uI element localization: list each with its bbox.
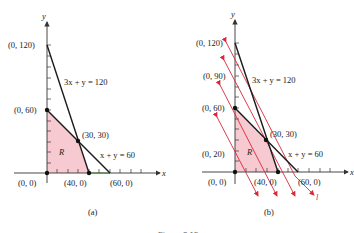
label-40-0-a: (40, 0) xyxy=(64,178,87,188)
label-0-120-b: (0, 120) xyxy=(196,38,223,48)
eq-x-plus-y-b: x + y = 60 xyxy=(288,149,323,159)
label-0-90-b: (0, 90) xyxy=(203,71,226,81)
y-axis-label-a: y xyxy=(41,11,46,21)
label-30-30-b: (30, 30) xyxy=(270,129,297,139)
region-label-b: R xyxy=(246,147,253,157)
vertex-30-30-b xyxy=(264,138,268,142)
panel-b: y x (0, 120) (0, 90) (0, 60) (0, 20) (30… xyxy=(196,9,354,217)
panel-caption-a: (a) xyxy=(88,207,98,217)
eq-3x-plus-y-b: 3x + y = 120 xyxy=(252,75,296,85)
eq-3x-plus-y-a: 3x + y = 120 xyxy=(64,77,108,87)
label-0-0-a: (0, 0) xyxy=(18,178,37,188)
label-0-60-a: (0, 60) xyxy=(14,105,37,115)
region-label-a: R xyxy=(58,147,65,157)
vertex-0-60-a xyxy=(45,108,49,112)
level-lines xyxy=(217,42,314,196)
figure-caption: Figure 3.15 xyxy=(158,230,199,233)
label-40-0-b: (40, 0) xyxy=(254,177,277,187)
vertex-0-60-b xyxy=(233,106,237,110)
y-axis-label-b: y xyxy=(230,9,235,19)
vertex-30-30-a xyxy=(76,139,80,143)
label-0-60-b: (0, 60) xyxy=(202,103,225,113)
label-60-0-b: (60, 0) xyxy=(298,177,321,187)
label-60-0-a: (60, 0) xyxy=(110,178,133,188)
x-axis-label-a: x xyxy=(161,168,166,178)
vertex-0-0-b xyxy=(233,170,237,174)
level-line-label: l xyxy=(316,192,319,202)
label-0-20-b: (0, 20) xyxy=(202,149,225,159)
feasible-region-b xyxy=(235,108,278,172)
vertex-40-0-a xyxy=(87,171,91,175)
label-0-0-b: (0, 0) xyxy=(208,177,227,187)
eq-x-plus-y-a: x + y = 60 xyxy=(100,150,135,160)
label-30-30-a: (30, 30) xyxy=(82,130,109,140)
figure-canvas: y x (0, 120) (0, 60) (30, 30) (0, 0) (40… xyxy=(0,0,354,233)
label-0-120-a: (0, 120) xyxy=(8,40,35,50)
vertex-40-0-b xyxy=(276,170,280,174)
panel-caption-b: (b) xyxy=(264,207,274,217)
feasible-region-a xyxy=(47,110,89,173)
panel-a: y x (0, 120) (0, 60) (30, 30) (0, 0) (40… xyxy=(8,11,166,217)
vertex-0-0-a xyxy=(45,171,49,175)
x-axis-label-b: x xyxy=(349,167,354,177)
